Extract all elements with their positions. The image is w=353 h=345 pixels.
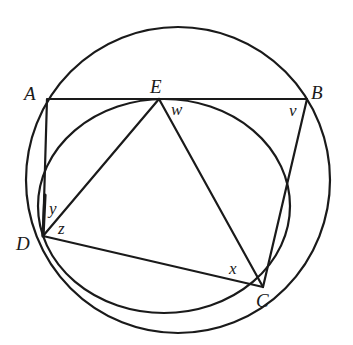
segment-DE (43, 99, 159, 236)
point-label-D: D (15, 233, 30, 254)
small-circle (38, 99, 290, 313)
point-label-E: E (149, 76, 162, 97)
large-circle (26, 27, 330, 333)
angle-label-z: z (57, 219, 65, 238)
angle-label-y: y (47, 199, 57, 218)
point-label-C: C (256, 290, 269, 311)
angle-label-w: w (171, 100, 183, 119)
segment-BC (263, 99, 307, 287)
segment-EC (159, 99, 263, 287)
angle-label-x: x (228, 259, 237, 278)
geometry-diagram: A E B D C w v y z x (0, 0, 353, 345)
point-label-A: A (22, 83, 36, 104)
angle-label-v: v (289, 101, 297, 120)
point-label-B: B (311, 82, 323, 103)
segment-AD-emphasis (43, 195, 45, 236)
